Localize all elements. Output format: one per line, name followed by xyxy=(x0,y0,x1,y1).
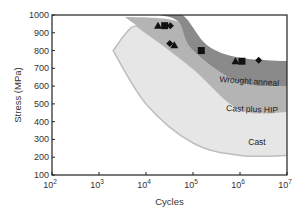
y-tick-label: 200 xyxy=(34,152,49,162)
band-label-cast-plus-hip: Cast plus HIP xyxy=(226,103,279,115)
y-tick-label: 800 xyxy=(34,46,49,56)
x-tick-label: 107 xyxy=(278,178,292,190)
y-tick-label: 100 xyxy=(34,170,49,180)
x-tick-label: 106 xyxy=(231,178,245,190)
y-tick-label: 700 xyxy=(34,63,49,73)
square-marker xyxy=(238,58,245,65)
y-tick-label: 900 xyxy=(34,28,49,38)
y-tick-label: 500 xyxy=(34,99,49,109)
x-tick-label: 105 xyxy=(184,178,198,190)
square-marker xyxy=(198,47,205,54)
y-axis-title: Stress (MPa) xyxy=(12,67,23,122)
x-tick-label: 103 xyxy=(90,178,104,190)
x-tick-label: 104 xyxy=(137,178,151,190)
y-tick-label: 600 xyxy=(34,81,49,91)
y-tick-label: 1000 xyxy=(29,10,49,20)
stress-cycles-chart: CastCast plus HIPWrought anneal 10210310… xyxy=(0,0,307,215)
y-tick-label: 300 xyxy=(34,134,49,144)
y-tick-label: 400 xyxy=(34,117,49,127)
band-label-cast: Cast xyxy=(248,137,266,147)
x-axis-title: Cycles xyxy=(155,196,184,207)
y-axis: 1002003004005006007008009001000 xyxy=(29,10,55,180)
